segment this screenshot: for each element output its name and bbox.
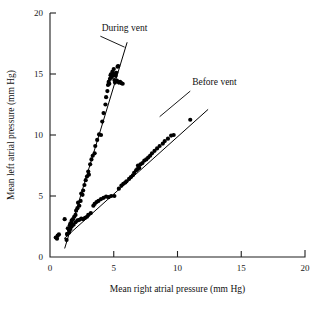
x-axis-title: Mean right atrial pressure (mm Hg) — [110, 284, 245, 295]
y-tick-label: 0 — [39, 252, 44, 262]
data-point — [81, 188, 85, 192]
data-point — [77, 204, 81, 208]
data-point — [100, 119, 104, 123]
y-axis-title: Mean left atrial pressure (mm Hg) — [6, 70, 17, 200]
data-point — [79, 199, 83, 203]
axis-frame — [50, 13, 305, 257]
data-point — [107, 82, 111, 86]
y-tick-label: 20 — [34, 8, 44, 18]
data-point — [89, 211, 93, 215]
series-before-vent — [64, 109, 208, 238]
x-tick-label: 15 — [237, 263, 247, 273]
data-point — [166, 137, 170, 141]
data-point — [93, 144, 97, 148]
annotation-leader-line — [100, 36, 124, 47]
data-point — [112, 67, 116, 71]
y-tick-label: 5 — [39, 191, 44, 201]
chart-canvas: 0510152005101520 During ventBefore vent … — [0, 0, 328, 310]
annotation-label: During vent — [102, 23, 148, 33]
data-point — [101, 111, 105, 115]
data-point — [116, 64, 120, 68]
annotations-group: During ventBefore vent — [100, 23, 237, 117]
data-point — [80, 193, 84, 197]
x-tick-label: 10 — [173, 263, 183, 273]
data-point — [87, 173, 91, 177]
data-point — [114, 71, 118, 75]
data-point — [172, 133, 176, 137]
x-tick-label: 0 — [48, 263, 53, 273]
series-during-vent — [54, 42, 128, 248]
x-tick-label: 20 — [301, 263, 311, 273]
data-point — [103, 102, 107, 106]
data-point — [188, 118, 192, 122]
scatter-plot-figure: 0510152005101520 During ventBefore vent … — [0, 0, 328, 310]
y-tick-label: 10 — [34, 130, 44, 140]
data-point — [84, 178, 88, 182]
data-series-group — [54, 42, 208, 248]
data-point — [105, 89, 109, 93]
annotation-leader-line — [160, 91, 191, 117]
x-tick-label: 5 — [112, 263, 117, 273]
data-point — [121, 82, 125, 86]
data-point — [88, 162, 92, 166]
data-point — [89, 157, 93, 161]
data-point — [57, 232, 61, 236]
data-point — [93, 151, 97, 155]
data-point — [63, 217, 67, 221]
data-point — [104, 95, 108, 99]
data-point — [73, 213, 77, 217]
y-tick-label: 15 — [34, 69, 44, 79]
axes-group: 0510152005101520 — [34, 8, 310, 273]
data-point — [137, 166, 141, 170]
data-point — [67, 231, 71, 235]
data-point — [112, 194, 116, 198]
data-point — [99, 133, 103, 137]
data-point — [95, 138, 99, 142]
data-point — [82, 183, 86, 187]
data-point — [64, 238, 68, 242]
annotation-label: Before vent — [192, 77, 237, 87]
